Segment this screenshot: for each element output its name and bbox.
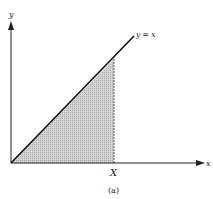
x-axis-arrow-icon — [196, 160, 205, 166]
y-axis-label: y — [8, 10, 14, 19]
diagram-canvas: y x y = x X (a) — [0, 0, 213, 199]
caption: (a) — [108, 186, 119, 195]
point-label: X — [109, 167, 118, 178]
x-axis-label: x — [206, 159, 211, 168]
y-axis-arrow-icon — [8, 21, 14, 30]
line-label: y = x — [135, 30, 156, 39]
